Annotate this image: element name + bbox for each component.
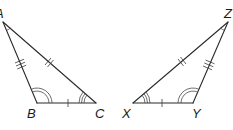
vertex-label-x: X xyxy=(121,106,132,121)
side-yz-tick-marks xyxy=(203,60,215,70)
vertex-label-c: C xyxy=(95,106,105,121)
triangle-abc xyxy=(3,22,96,107)
congruent-triangles-diagram: A B C X Y Z xyxy=(0,0,233,130)
vertex-label-y: Y xyxy=(192,106,202,121)
angle-a-arc xyxy=(7,28,11,30)
triangle-xyz xyxy=(133,22,228,107)
side-ab xyxy=(3,22,37,103)
side-ab-tick-marks xyxy=(15,59,26,69)
vertex-label-b: B xyxy=(27,106,36,121)
vertex-label-z: Z xyxy=(223,6,233,21)
vertex-label-a: A xyxy=(0,6,4,21)
angle-z-arc xyxy=(221,28,225,30)
